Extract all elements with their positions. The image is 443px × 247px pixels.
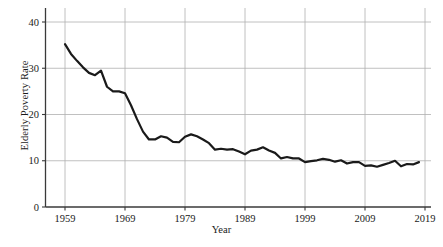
axis-spines-group: [42, 8, 431, 211]
x-tick-label: 1969: [115, 213, 136, 224]
y-tick-labels-group: 010203040: [29, 17, 40, 213]
chart-container: Elderly Poverty Rate Year 010203040 1959…: [0, 0, 443, 247]
x-tick-label: 2019: [415, 213, 436, 224]
gridlines-group: [46, 8, 432, 207]
x-tick-label: 1959: [55, 213, 76, 224]
x-tick-labels-group: 1959196919791989199920092019: [55, 213, 436, 224]
data-line-group: [65, 44, 419, 167]
x-tick-label: 2009: [355, 213, 376, 224]
y-tick-label: 0: [34, 202, 39, 213]
x-tick-label: 1989: [235, 213, 256, 224]
y-tick-label: 20: [29, 109, 40, 120]
y-tick-label: 30: [29, 63, 40, 74]
x-tick-label: 1999: [295, 213, 316, 224]
y-tick-label: 40: [29, 17, 40, 28]
x-tick-label: 1979: [175, 213, 196, 224]
data-series-line: [65, 44, 419, 167]
y-tick-label: 10: [29, 155, 40, 166]
line-chart-plot: 010203040 1959196919791989199920092019: [0, 0, 443, 247]
